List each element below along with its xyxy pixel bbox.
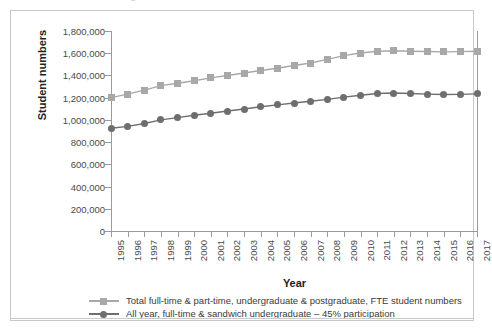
- x-axis-tick: [460, 232, 461, 237]
- x-axis-tick: [111, 232, 112, 237]
- y-axis-tick-label: 400,000: [35, 181, 105, 192]
- x-axis-tick: [144, 232, 145, 237]
- data-point: [291, 62, 298, 69]
- data-point: [108, 94, 115, 101]
- square-marker-icon: [89, 295, 119, 306]
- data-point: [374, 48, 381, 55]
- data-point: [424, 91, 431, 98]
- x-axis-tick: [344, 232, 345, 237]
- data-point: [224, 72, 231, 79]
- chart-frame: Student numbers Year 0200,000400,000600,…: [10, 10, 474, 321]
- x-axis-tick: [377, 232, 378, 237]
- data-point: [241, 106, 248, 113]
- x-axis-tick-label: 2004: [265, 240, 276, 261]
- x-axis-tick: [361, 232, 362, 237]
- data-point: [108, 125, 115, 132]
- x-axis-tick-label: 2015: [448, 240, 459, 261]
- plot-area: [111, 31, 477, 231]
- right-axis-line: [477, 31, 478, 232]
- x-axis-tick-label: 2002: [231, 240, 242, 261]
- data-point: [141, 120, 148, 127]
- cut-off-title: Figure: [0, 0, 486, 9]
- data-point: [124, 123, 131, 130]
- series-line-allyear: [111, 93, 477, 128]
- x-axis-tick: [327, 232, 328, 237]
- data-point: [440, 48, 447, 55]
- y-axis-tick-label: 1,600,000: [35, 48, 105, 59]
- x-axis-tick-label: 1999: [182, 240, 193, 261]
- legend-item-total: Total full-time & part-time, undergradua…: [89, 294, 479, 307]
- data-point: [157, 82, 164, 89]
- data-point: [124, 91, 131, 98]
- data-point: [191, 112, 198, 119]
- data-point: [207, 110, 214, 117]
- data-point: [174, 80, 181, 87]
- x-axis-tick: [427, 232, 428, 237]
- x-axis-tick: [194, 232, 195, 237]
- legend-divider: [10, 318, 474, 319]
- x-axis-tick: [211, 232, 212, 237]
- x-axis-tick-label: 1997: [148, 240, 159, 261]
- x-axis-tick-label: 1995: [115, 240, 126, 261]
- x-axis-tick-label: 2009: [348, 240, 359, 261]
- data-point: [390, 47, 397, 54]
- data-point: [390, 90, 397, 97]
- x-axis-tick-label: 2005: [281, 240, 292, 261]
- x-axis-tick: [311, 232, 312, 237]
- data-point: [291, 100, 298, 107]
- cut-off-title-text: Figure: [120, 0, 154, 1]
- data-point: [340, 52, 347, 59]
- x-axis-tick: [277, 232, 278, 237]
- x-axis-tick-label: 2010: [365, 240, 376, 261]
- y-axis-tick-label: 1,800,000: [35, 26, 105, 37]
- x-axis-tick: [444, 232, 445, 237]
- x-axis-tick-label: 1996: [132, 240, 143, 261]
- y-axis-tick-label: 1,000,000: [35, 114, 105, 125]
- x-axis-tick-label: 2007: [315, 240, 326, 261]
- y-axis-tick-label: 1,400,000: [35, 70, 105, 81]
- x-axis-tick-label: 2003: [248, 240, 259, 261]
- x-axis-tick: [227, 232, 228, 237]
- x-axis-tick-label: 2016: [464, 240, 475, 261]
- x-axis-tick-label: 2001: [215, 240, 226, 261]
- data-point: [324, 56, 331, 63]
- x-axis-tick-label: 2012: [398, 240, 409, 261]
- y-axis-tick-label: 200,000: [35, 203, 105, 214]
- x-axis-tick: [294, 232, 295, 237]
- data-point: [424, 48, 431, 55]
- data-point: [274, 65, 281, 72]
- x-axis-tick: [410, 232, 411, 237]
- x-axis-tick: [261, 232, 262, 237]
- data-point: [241, 70, 248, 77]
- x-axis-tick: [161, 232, 162, 237]
- data-point: [457, 48, 464, 55]
- y-axis-tick-label: 0: [35, 226, 105, 237]
- data-point: [407, 90, 414, 97]
- y-axis-tick-label: 800,000: [35, 137, 105, 148]
- legend-label-total: Total full-time & part-time, undergradua…: [126, 295, 462, 306]
- x-axis-tick: [128, 232, 129, 237]
- x-axis-tick-label: 2008: [331, 240, 342, 261]
- data-point: [207, 74, 214, 81]
- x-axis-tick-label: 2014: [431, 240, 442, 261]
- data-point: [374, 90, 381, 97]
- y-axis-tick-label: 600,000: [35, 159, 105, 170]
- data-point: [357, 92, 364, 99]
- x-axis-tick-label: 2006: [298, 240, 309, 261]
- x-axis-tick: [477, 232, 478, 237]
- x-axis-tick: [178, 232, 179, 237]
- x-axis-tick: [244, 232, 245, 237]
- x-axis-tick-label: 2011: [381, 240, 392, 260]
- y-axis-tick-label: 1,200,000: [35, 92, 105, 103]
- series-line-total: [111, 51, 477, 98]
- x-axis-tick: [394, 232, 395, 237]
- x-axis-tick-label: 1998: [165, 240, 176, 261]
- data-point: [357, 50, 364, 57]
- data-point: [407, 48, 414, 55]
- data-point: [474, 90, 481, 97]
- data-point: [307, 60, 314, 67]
- data-point: [474, 48, 481, 55]
- data-point: [224, 108, 231, 115]
- data-point: [191, 77, 198, 84]
- legend: Total full-time & part-time, undergradua…: [89, 294, 479, 320]
